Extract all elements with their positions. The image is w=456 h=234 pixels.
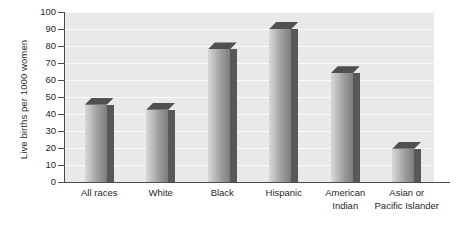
bar-front-face (208, 49, 230, 182)
y-axis-tick-label: 10 (30, 160, 56, 170)
bar-front-face (146, 110, 168, 182)
x-axis-category-label-line: Pacific Islander (352, 199, 456, 212)
bar-top-face (269, 22, 298, 29)
bar-front-face (392, 149, 414, 182)
gridline (65, 29, 434, 30)
bar (392, 142, 421, 182)
y-axis-tick-label: 40 (30, 109, 56, 119)
bar-top-face (208, 42, 237, 49)
x-axis-line (64, 182, 450, 183)
y-axis-tick-labels: 0102030405060708090100 (30, 12, 56, 182)
y-axis-tick-label: 50 (30, 92, 56, 102)
bar (331, 66, 360, 182)
gridline (65, 97, 434, 98)
gridline (65, 46, 434, 47)
bar-top-face (85, 98, 114, 105)
gridline (65, 63, 434, 64)
bar-front-face (85, 105, 107, 182)
bar-top-face (146, 103, 175, 110)
gridline (65, 12, 434, 13)
bar (269, 22, 298, 182)
x-axis-category-labels: All racesWhiteBlackHispanicAmericanIndia… (65, 186, 456, 232)
bar-front-face (331, 73, 353, 182)
x-axis-category-label: Asian orPacific Islander (352, 186, 456, 212)
plot-area (65, 12, 434, 182)
y-axis-tick-label: 80 (30, 41, 56, 51)
gridline (65, 148, 434, 149)
x-axis-category-label-line: Asian or (352, 186, 456, 199)
bar-side-face (414, 149, 421, 182)
bar-side-face (107, 105, 114, 182)
y-axis-tick-label: 30 (30, 126, 56, 136)
bar-chart: Live births per 1000 women 0102030405060… (0, 0, 456, 234)
gridline (65, 114, 434, 115)
y-axis-title-text: Live births per 1000 women (19, 39, 30, 158)
y-axis-tick-label: 20 (30, 143, 56, 153)
gridline (65, 165, 434, 166)
bar-side-face (291, 29, 298, 182)
gridline (65, 80, 434, 81)
bar-side-face (353, 73, 360, 182)
bar-top-face (392, 142, 421, 149)
y-axis-tick-label: 60 (30, 75, 56, 85)
y-axis-tick-label: 70 (30, 58, 56, 68)
bar-side-face (230, 49, 237, 182)
y-axis-tick-label: 90 (30, 24, 56, 34)
bar (146, 103, 175, 182)
y-axis-tick-label: 100 (30, 7, 56, 17)
bar-top-face (331, 66, 360, 73)
bar-side-face (168, 110, 175, 182)
bar-front-face (269, 29, 291, 182)
bar (208, 42, 237, 182)
gridline (65, 131, 434, 132)
bar (85, 98, 114, 182)
